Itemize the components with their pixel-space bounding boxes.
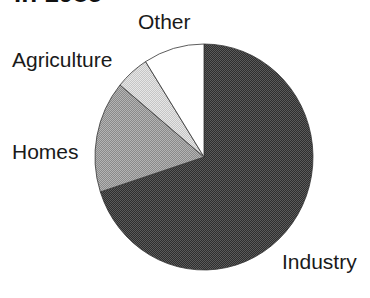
pie-slices: [95, 44, 313, 270]
label-other: Other: [138, 10, 191, 34]
label-homes: Homes: [12, 140, 79, 164]
label-industry: Industry: [282, 250, 357, 274]
pie-chart: in 1985 Other Agriculture Homes Industry: [0, 0, 370, 298]
label-agriculture: Agriculture: [12, 48, 112, 72]
